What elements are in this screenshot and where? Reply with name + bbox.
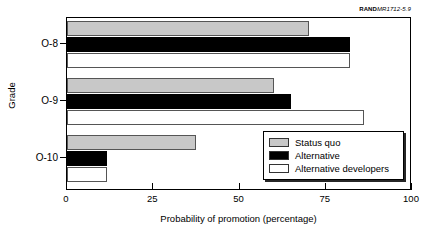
bar-group-o9 <box>67 78 410 127</box>
y-tick-o-10 <box>60 157 66 158</box>
legend-label-status-quo: Status quo <box>295 137 340 148</box>
bar-o8-alternative <box>67 37 350 52</box>
legend-item-status-quo: Status quo <box>269 136 398 149</box>
bar-chart-figure: Grade Status quo Alternative <box>0 0 437 236</box>
legend-label-alternative: Alternative <box>295 150 340 161</box>
x-tick-50 <box>239 183 240 190</box>
legend-item-alternative: Alternative <box>269 149 398 162</box>
bar-o9-alternative <box>67 94 291 109</box>
x-tick-label-75: 75 <box>319 193 330 204</box>
y-tick-label-o-8: O-8 <box>14 38 58 49</box>
y-tick-label-o-9: O-9 <box>14 95 58 106</box>
bar-o10-alternative <box>67 151 107 166</box>
legend-swatch-alternative-developers <box>269 164 289 173</box>
x-tick-0 <box>66 183 67 190</box>
x-tick-label-50: 50 <box>233 193 244 204</box>
legend-label-alternative-developers: Alternative developers <box>295 163 389 174</box>
bar-o9-status-quo <box>67 78 274 93</box>
x-tick-100 <box>411 183 412 190</box>
legend: Status quo Alternative Alternative devel… <box>263 131 404 180</box>
x-tick-75 <box>325 183 326 190</box>
y-tick-o-8 <box>60 43 66 44</box>
bar-o8-alternative-developers <box>67 53 350 68</box>
legend-swatch-alternative <box>269 151 289 160</box>
bar-o10-status-quo <box>67 135 196 150</box>
x-tick-label-100: 100 <box>403 193 419 204</box>
x-tick-label-25: 25 <box>147 193 158 204</box>
legend-swatch-status-quo <box>269 138 289 147</box>
bar-o9-alternative-developers <box>67 110 364 125</box>
legend-item-alternative-developers: Alternative developers <box>269 162 398 175</box>
bar-o8-status-quo <box>67 21 309 36</box>
x-axis-title: Probability of promotion (percentage) <box>66 213 411 224</box>
y-tick-label-o-10: O-10 <box>14 152 58 163</box>
bar-o10-alternative-developers <box>67 167 107 182</box>
y-tick-o-9 <box>60 100 66 101</box>
x-tick-label-0: 0 <box>63 193 68 204</box>
bar-group-o8 <box>67 21 410 70</box>
plot-area: Status quo Alternative Alternative devel… <box>66 17 411 190</box>
x-tick-25 <box>152 183 153 190</box>
